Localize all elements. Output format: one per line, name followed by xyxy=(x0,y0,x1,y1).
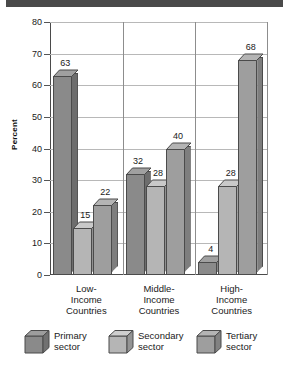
y-axis-tick-label: 50 xyxy=(20,113,42,122)
legend-label: Secondarysector xyxy=(138,331,183,352)
y-axis-tick-label: 10 xyxy=(20,239,42,248)
bar-top-face xyxy=(198,256,217,262)
bar xyxy=(53,76,72,275)
bar-front-face xyxy=(53,76,72,275)
gridline xyxy=(50,117,268,118)
plot-area: Percent 01020304050607080 63324152828224… xyxy=(0,12,283,282)
bar xyxy=(218,186,237,275)
x-axis-category-label-line: Income xyxy=(196,294,268,305)
bar xyxy=(146,186,165,275)
bar-value-label: 40 xyxy=(167,132,189,141)
y-axis-tick-mark xyxy=(44,22,50,23)
y-axis-tick-mark xyxy=(44,54,50,55)
chart-legend: PrimarysectorSecondarysectorTertiarysect… xyxy=(0,326,283,366)
legend-label-line2: sector xyxy=(54,342,87,353)
legend-label-line2: sector xyxy=(138,342,183,353)
bar-value-label: 28 xyxy=(147,169,169,178)
bar-value-label: 68 xyxy=(240,43,262,52)
y-axis-tick-labels: 01020304050607080 xyxy=(18,12,42,275)
y-axis-tick-label: 30 xyxy=(20,176,42,185)
legend-label-line2: sector xyxy=(226,342,257,353)
bar-top-face xyxy=(93,199,112,205)
bar-value-label: 22 xyxy=(94,188,116,197)
gridline xyxy=(50,85,268,86)
bar xyxy=(126,174,145,275)
bar-front-face xyxy=(126,174,145,275)
bar-top-face xyxy=(126,168,145,174)
bar-front-face xyxy=(146,186,165,275)
x-axis-category-label-line: Countries xyxy=(50,305,122,316)
bar-front-face xyxy=(218,186,237,275)
x-axis-category-label-line: Low- xyxy=(50,283,122,294)
bar-side-face xyxy=(185,146,191,273)
bar-value-label: 28 xyxy=(220,169,242,178)
y-axis-tick-label: 60 xyxy=(20,81,42,90)
legend-label-line1: Secondary xyxy=(138,331,183,342)
top-banner xyxy=(6,0,283,7)
x-axis-category-label: High-IncomeCountries xyxy=(196,283,268,316)
bar-value-label: 15 xyxy=(74,211,96,220)
y-axis-tick-label: 20 xyxy=(20,208,42,217)
bar-side-face xyxy=(112,202,118,272)
x-axis-category-label-line: Countries xyxy=(196,305,268,316)
bar xyxy=(238,60,257,275)
group-separator-line xyxy=(123,22,124,275)
bar-front-face xyxy=(198,262,217,275)
x-axis-category-label-line: Income xyxy=(123,294,195,305)
y-axis-tick-label: 70 xyxy=(20,50,42,59)
bar-top-face xyxy=(146,180,165,186)
bar xyxy=(73,228,92,275)
y-axis-tick-mark xyxy=(44,275,50,276)
legend-swatch-cube-icon xyxy=(108,329,136,355)
y-axis-tick-label: 0 xyxy=(20,271,42,280)
y-axis-tick-mark xyxy=(44,85,50,86)
y-axis-tick-mark xyxy=(44,243,50,244)
bar-top-face xyxy=(53,70,72,76)
x-axis-category-label: Middle-IncomeCountries xyxy=(123,283,195,316)
bar-value-label: 32 xyxy=(127,157,149,166)
legend-swatch-cube-icon xyxy=(24,329,52,355)
bar-front-face xyxy=(238,60,257,275)
group-separator-line xyxy=(195,22,196,275)
gridline xyxy=(50,22,268,23)
legend-swatch-cube-icon xyxy=(196,329,224,355)
legend-label: Primarysector xyxy=(54,331,87,352)
bar-side-face xyxy=(257,57,263,272)
y-axis-tick-mark xyxy=(44,149,50,150)
x-axis-category-label-line: Middle- xyxy=(123,283,195,294)
plot-right-border xyxy=(267,22,268,275)
gridline xyxy=(50,54,268,55)
x-axis-category-label: Low-IncomeCountries xyxy=(50,283,122,316)
bar-value-label: 63 xyxy=(54,59,76,68)
gridline xyxy=(50,149,268,150)
y-axis-tick-label: 40 xyxy=(20,145,42,154)
bar-front-face xyxy=(166,149,185,276)
legend-label-line1: Primary xyxy=(54,331,87,342)
bar-front-face xyxy=(73,228,92,275)
x-axis-category-label-line: Countries xyxy=(123,305,195,316)
bar-top-face xyxy=(218,180,237,186)
chart-figure: Percent 01020304050607080 63324152828224… xyxy=(0,0,283,366)
bar-top-face xyxy=(238,54,257,60)
x-axis-category-label-line: High- xyxy=(196,283,268,294)
bar xyxy=(198,262,217,275)
legend-label-line1: Tertiary xyxy=(226,331,257,342)
y-axis-tick-mark xyxy=(44,212,50,213)
y-axis-tick-mark xyxy=(44,117,50,118)
x-axis-category-label-line: Income xyxy=(50,294,122,305)
y-axis-tick-label: 80 xyxy=(20,18,42,27)
bar-value-label: 4 xyxy=(200,245,222,254)
bar xyxy=(166,149,185,276)
legend-label: Tertiarysector xyxy=(226,331,257,352)
bar-top-face xyxy=(73,222,92,228)
y-axis-tick-mark xyxy=(44,180,50,181)
bar-top-face xyxy=(166,143,185,149)
